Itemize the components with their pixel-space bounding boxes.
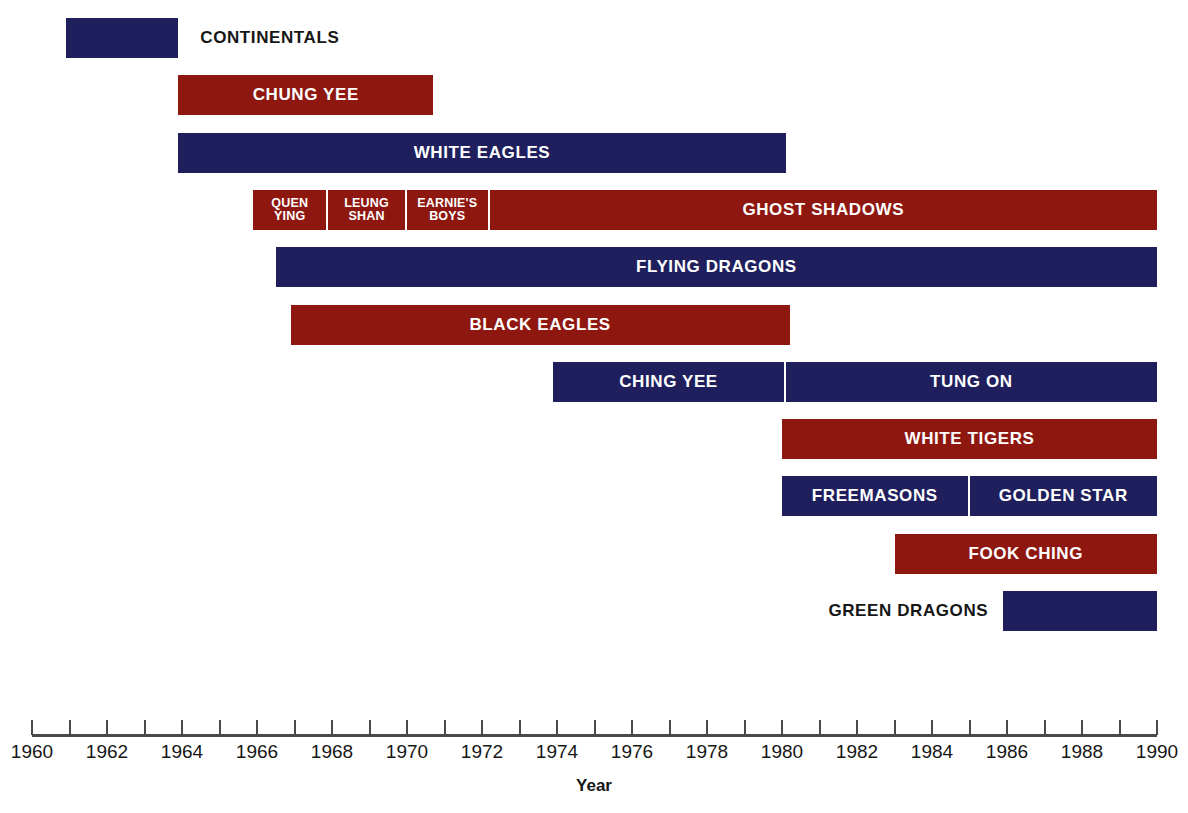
axis-tick-label: 1972: [461, 741, 503, 763]
axis-tick: [856, 720, 858, 735]
timeline-row: FOOK CHING: [0, 534, 1188, 574]
timeline-row: BLACK EAGLES: [0, 305, 1188, 345]
axis-tick: [631, 720, 633, 735]
gang-bar[interactable]: BLACK EAGLES: [291, 305, 790, 345]
axis-tick: [519, 720, 521, 735]
timeline-row: FREEMASONSGOLDEN STAR: [0, 476, 1188, 516]
axis-tick: [444, 720, 446, 735]
axis-tick: [1081, 720, 1083, 735]
gang-bar-label: CHING YEE: [619, 373, 718, 391]
timeline-row: CONTINENTALS: [0, 18, 1188, 58]
axis-tick-label: 1986: [986, 741, 1028, 763]
axis-tick: [781, 720, 783, 735]
x-axis-title: Year: [0, 776, 1188, 796]
axis-tick-label: 1974: [536, 741, 578, 763]
gang-bar-label: LEUNG SHAN: [344, 197, 389, 223]
axis-tick-label: 1990: [1136, 741, 1178, 763]
axis-tick: [669, 720, 671, 735]
gang-bar-label: WHITE TIGERS: [905, 430, 1035, 448]
axis-tick: [256, 720, 258, 735]
gang-bar-label: CHUNG YEE: [253, 86, 359, 104]
axis-tick: [369, 720, 371, 735]
gang-bar-label: FOOK CHING: [968, 545, 1083, 563]
axis-tick: [594, 720, 596, 735]
axis-tick: [106, 720, 108, 735]
timeline-row: QUEN YINGLEUNG SHANEARNIE'S BOYSGHOST SH…: [0, 190, 1188, 230]
timeline-row: CHING YEETUNG ON: [0, 362, 1188, 402]
axis-tick: [931, 720, 933, 735]
axis-tick: [331, 720, 333, 735]
gang-bar-label: GREEN DRAGONS: [493, 591, 988, 631]
gang-bar-label: EARNIE'S BOYS: [417, 197, 477, 223]
gang-bar[interactable]: [66, 18, 179, 58]
gang-timeline-chart: CONTINENTALSCHUNG YEEWHITE EAGLESQUEN YI…: [0, 0, 1188, 813]
gang-bar-label: TUNG ON: [930, 373, 1013, 391]
gang-bar-label: GHOST SHADOWS: [742, 201, 904, 219]
gang-bar[interactable]: CHING YEE: [553, 362, 786, 402]
axis-tick: [706, 720, 708, 735]
gang-bar[interactable]: [1003, 591, 1157, 631]
axis-tick: [406, 720, 408, 735]
timeline-row: WHITE TIGERS: [0, 419, 1188, 459]
axis-tick-label: 1978: [686, 741, 728, 763]
gang-bar[interactable]: TUNG ON: [786, 362, 1157, 402]
x-axis: 1960196219641966196819701972197419761978…: [0, 712, 1188, 813]
gang-bar-label: BLACK EAGLES: [469, 316, 610, 334]
axis-tick: [144, 720, 146, 735]
gang-bar[interactable]: GOLDEN STAR: [970, 476, 1158, 516]
gang-bar-label: WHITE EAGLES: [414, 144, 551, 162]
axis-tick: [1044, 720, 1046, 735]
axis-tick-label: 1962: [86, 741, 128, 763]
axis-tick-label: 1970: [386, 741, 428, 763]
gang-bar-label: FREEMASONS: [812, 487, 938, 505]
gang-bar-label: FLYING DRAGONS: [636, 258, 797, 276]
axis-tick-label: 1960: [11, 741, 53, 763]
gang-bar[interactable]: FOOK CHING: [895, 534, 1158, 574]
axis-tick: [744, 720, 746, 735]
axis-tick: [1156, 720, 1158, 735]
timeline-row: FLYING DRAGONS: [0, 247, 1188, 287]
gang-bar-label: CONTINENTALS: [200, 18, 700, 58]
axis-tick: [69, 720, 71, 735]
axis-tick: [181, 720, 183, 735]
timeline-row: GREEN DRAGONS: [0, 591, 1188, 631]
gang-bar-label: QUEN YING: [271, 197, 308, 223]
axis-tick: [1119, 720, 1121, 735]
timeline-row: WHITE EAGLES: [0, 133, 1188, 173]
timeline-row: CHUNG YEE: [0, 75, 1188, 115]
axis-tick-label: 1966: [236, 741, 278, 763]
axis-tick: [556, 720, 558, 735]
axis-tick: [294, 720, 296, 735]
gang-bar-label: GOLDEN STAR: [999, 487, 1128, 505]
axis-tick: [894, 720, 896, 735]
gang-bar[interactable]: WHITE TIGERS: [782, 419, 1157, 459]
axis-tick: [31, 720, 33, 735]
axis-tick-label: 1968: [311, 741, 353, 763]
axis-tick: [219, 720, 221, 735]
gang-bar[interactable]: FLYING DRAGONS: [276, 247, 1157, 287]
timeline-plot-area: CONTINENTALSCHUNG YEEWHITE EAGLESQUEN YI…: [0, 0, 1188, 712]
gang-bar[interactable]: LEUNG SHAN: [328, 190, 407, 230]
axis-tick-label: 1980: [761, 741, 803, 763]
axis-tick-label: 1982: [836, 741, 878, 763]
gang-bar[interactable]: WHITE EAGLES: [178, 133, 786, 173]
gang-bar[interactable]: CHUNG YEE: [178, 75, 433, 115]
axis-tick-label: 1976: [611, 741, 653, 763]
gang-bar[interactable]: GHOST SHADOWS: [490, 190, 1158, 230]
axis-tick-label: 1964: [161, 741, 203, 763]
axis-tick: [481, 720, 483, 735]
axis-tick-label: 1984: [911, 741, 953, 763]
axis-tick: [969, 720, 971, 735]
axis-tick: [1006, 720, 1008, 735]
gang-bar[interactable]: QUEN YING: [253, 190, 328, 230]
gang-bar[interactable]: FREEMASONS: [782, 476, 970, 516]
gang-bar[interactable]: EARNIE'S BOYS: [407, 190, 490, 230]
axis-tick: [819, 720, 821, 735]
axis-tick-label: 1988: [1061, 741, 1103, 763]
